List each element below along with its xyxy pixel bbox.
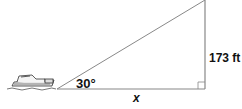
triangle-diagram bbox=[0, 0, 242, 109]
base-label: x bbox=[133, 91, 140, 105]
height-label: 173 ft bbox=[209, 51, 240, 65]
boat-icon bbox=[7, 75, 56, 90]
angle-label: 30° bbox=[76, 76, 96, 91]
right-angle-marker bbox=[198, 82, 205, 89]
